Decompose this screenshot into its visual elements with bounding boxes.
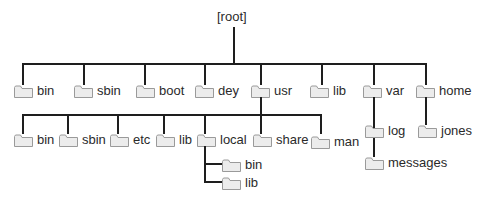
connector-line bbox=[83, 63, 85, 85]
folder-label: jones bbox=[441, 123, 472, 139]
connector-line bbox=[204, 181, 223, 183]
folder-node-bin[interactable]: bin bbox=[14, 83, 54, 99]
connector-line bbox=[425, 97, 427, 125]
folder-label: lib bbox=[333, 83, 346, 99]
folder-icon bbox=[418, 125, 437, 138]
connector-line bbox=[117, 114, 119, 134]
folder-icon bbox=[253, 134, 272, 147]
folder-label: dey bbox=[218, 83, 239, 99]
connector-line bbox=[260, 63, 262, 85]
folder-node-home-jones[interactable]: jones bbox=[418, 123, 472, 139]
folder-label: share bbox=[276, 132, 309, 148]
folder-icon bbox=[363, 85, 382, 98]
folder-node-boot[interactable]: boot bbox=[136, 83, 184, 99]
folder-node-var[interactable]: var bbox=[363, 83, 404, 99]
folder-icon bbox=[251, 85, 270, 98]
folder-icon bbox=[74, 85, 93, 98]
connector-line bbox=[144, 63, 146, 85]
folder-icon bbox=[110, 134, 129, 147]
folder-label: lib bbox=[179, 132, 192, 148]
folder-icon bbox=[365, 157, 384, 170]
connector-line bbox=[373, 63, 375, 85]
folder-node-usr-lib[interactable]: lib bbox=[156, 132, 192, 148]
folder-label: var bbox=[386, 83, 404, 99]
folder-label: boot bbox=[159, 83, 184, 99]
folder-label: sbin bbox=[97, 83, 121, 99]
folder-label: etc bbox=[133, 132, 150, 148]
folder-label: home bbox=[439, 83, 472, 99]
folder-label: sbin bbox=[82, 132, 106, 148]
folder-node-usr-man[interactable]: man bbox=[311, 134, 359, 150]
connector-line bbox=[204, 63, 206, 85]
folder-icon bbox=[197, 134, 216, 147]
folder-node-usr[interactable]: usr bbox=[251, 83, 292, 99]
folder-label: local bbox=[220, 132, 247, 148]
connector-line bbox=[22, 114, 24, 134]
folder-node-local-lib[interactable]: lib bbox=[222, 175, 258, 191]
folder-icon bbox=[14, 85, 33, 98]
connector-line bbox=[260, 114, 262, 134]
connector-line bbox=[425, 63, 427, 85]
folder-node-usr-etc[interactable]: etc bbox=[110, 132, 150, 148]
folder-node-var-log[interactable]: log bbox=[365, 123, 405, 139]
folder-node-usr-share[interactable]: share bbox=[253, 132, 309, 148]
folder-icon bbox=[365, 125, 384, 138]
connector-line bbox=[67, 114, 69, 134]
folder-icon bbox=[59, 134, 78, 147]
folder-node-usr-sbin[interactable]: sbin bbox=[59, 132, 106, 148]
folder-label: messages bbox=[388, 155, 447, 171]
connector-line bbox=[321, 63, 323, 85]
folder-label: lib bbox=[245, 175, 258, 191]
folder-node-local-bin[interactable]: bin bbox=[222, 157, 262, 173]
folder-icon bbox=[310, 85, 329, 98]
folder-node-dey[interactable]: dey bbox=[195, 83, 239, 99]
folder-icon bbox=[222, 177, 241, 190]
connector-line bbox=[204, 163, 223, 165]
folder-node-usr-bin[interactable]: bin bbox=[14, 132, 54, 148]
folder-icon bbox=[311, 136, 330, 149]
folder-label: man bbox=[334, 134, 359, 150]
folder-label: log bbox=[388, 123, 405, 139]
folder-node-lib[interactable]: lib bbox=[310, 83, 346, 99]
folder-icon bbox=[14, 134, 33, 147]
folder-node-var-messages[interactable]: messages bbox=[365, 155, 447, 171]
folder-icon bbox=[416, 85, 435, 98]
connector-line bbox=[320, 114, 322, 134]
folder-label: bin bbox=[37, 132, 54, 148]
root-label: [root] bbox=[217, 9, 247, 25]
folder-label: usr bbox=[274, 83, 292, 99]
connector-line bbox=[22, 63, 24, 85]
connector-line bbox=[163, 114, 165, 134]
folder-node-sbin[interactable]: sbin bbox=[74, 83, 121, 99]
connector-line bbox=[204, 114, 206, 134]
folder-label: bin bbox=[245, 157, 262, 173]
folder-icon bbox=[156, 134, 175, 147]
folder-icon bbox=[136, 85, 155, 98]
folder-label: bin bbox=[37, 83, 54, 99]
folder-icon bbox=[222, 159, 241, 172]
connector-line bbox=[233, 27, 235, 65]
folder-icon bbox=[195, 85, 214, 98]
